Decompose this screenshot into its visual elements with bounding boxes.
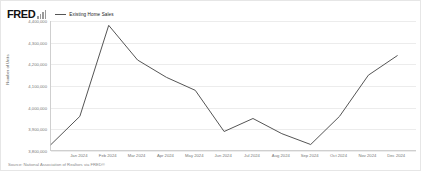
- x-axis-ticks: Jan 2024Feb 2024Mar 2024Apr 2024May 2024…: [50, 21, 415, 151]
- y-tick-label: 3,900,000: [7, 127, 47, 132]
- y-tick-label: 4,400,000: [7, 19, 47, 24]
- y-tick-label: 4,300,000: [7, 40, 47, 45]
- x-tick-label: Aug 2024: [272, 153, 290, 158]
- x-tick-label: Jul 2024: [244, 153, 260, 158]
- chart-legend: Existing Home Sales: [55, 12, 113, 17]
- y-tick-label: 3,800,000: [7, 149, 47, 154]
- x-tick-label: Oct 2024: [330, 153, 347, 158]
- x-tick-label: Sep 2024: [301, 153, 319, 158]
- x-tick-label: Jan 2024: [70, 153, 87, 158]
- gridline: [51, 151, 416, 152]
- legend-line-swatch: [55, 14, 66, 15]
- x-tick-label: Nov 2024: [358, 153, 376, 158]
- x-tick-label: Dec 2024: [387, 153, 405, 158]
- y-tick-label: 4,100,000: [7, 84, 47, 89]
- y-tick-label: 4,200,000: [7, 62, 47, 67]
- x-tick-label: Mar 2024: [128, 153, 146, 158]
- plot-area: Number of Units 4,400,0004,300,0004,200,…: [1, 21, 421, 151]
- x-tick-label: May 2024: [185, 153, 203, 158]
- x-tick-label: Apr 2024: [157, 153, 174, 158]
- legend-item-label: Existing Home Sales: [69, 12, 113, 17]
- bar-chart-icon: [37, 10, 46, 19]
- x-tick-label: Jun 2024: [214, 153, 231, 158]
- y-axis-ticks: 4,400,0004,300,0004,200,0004,100,0004,00…: [5, 21, 47, 151]
- source-note: Source: National Association of Realtors…: [8, 162, 105, 167]
- fred-chart-card: FRED Existing Home Sales Number of Units…: [0, 0, 421, 171]
- y-tick-label: 4,000,000: [7, 105, 47, 110]
- x-tick-label: Feb 2024: [99, 153, 117, 158]
